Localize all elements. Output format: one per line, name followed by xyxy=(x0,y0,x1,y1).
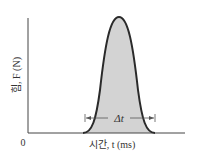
delta-t-label: Δt xyxy=(113,112,124,124)
origin-label: 0 xyxy=(21,137,26,148)
y-axis-label: 힘, F (N) xyxy=(11,57,23,93)
x-axis-label: 시간, t (ms) xyxy=(89,139,136,151)
force-time-diagram: Δt 0 시간, t (ms) 힘, F (N) xyxy=(0,0,198,158)
